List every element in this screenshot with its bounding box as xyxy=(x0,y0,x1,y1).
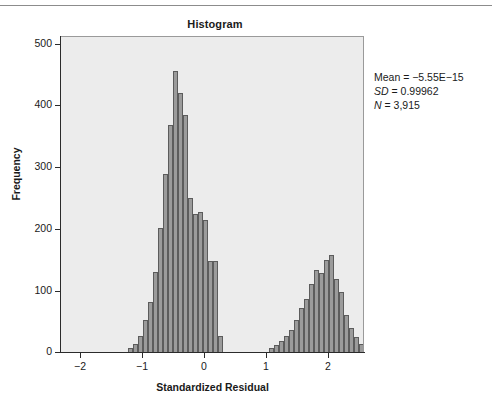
x-axis-title: Standardized Residual xyxy=(60,381,365,393)
histogram-page: Histogram 5004003002001000 −2−1012 Frequ… xyxy=(0,0,492,413)
stat-n-value: = 3,915 xyxy=(382,99,420,111)
histogram-bars xyxy=(61,37,363,352)
x-tick-label: 0 xyxy=(189,360,219,372)
stat-sd: SD = 0.99962 xyxy=(374,84,464,98)
chart-title: Histogram xyxy=(0,18,430,30)
stat-sd-symbol: SD xyxy=(374,85,389,97)
y-axis-title: Frequency xyxy=(10,114,22,234)
x-tick-label: 2 xyxy=(313,360,343,372)
stat-n: N = 3,915 xyxy=(374,98,464,112)
stat-mean: Mean = −5.55E−15 xyxy=(374,70,464,84)
x-tick-mark xyxy=(328,353,329,358)
x-tick-label: −2 xyxy=(65,360,95,372)
x-axis-line xyxy=(60,352,365,353)
x-tick-mark xyxy=(142,353,143,358)
stat-mean-text: Mean = −5.55E−15 xyxy=(374,71,464,83)
plot-area xyxy=(60,36,364,353)
x-tick-mark xyxy=(204,353,205,358)
y-tick-label: 0 xyxy=(20,345,52,357)
x-tick-label: −1 xyxy=(127,360,157,372)
y-tick-label: 200 xyxy=(20,222,52,234)
histogram-bar xyxy=(218,336,223,352)
stats-annotation: Mean = −5.55E−15 SD = 0.99962 N = 3,915 xyxy=(374,70,464,112)
stat-sd-value: = 0.99962 xyxy=(389,85,439,97)
y-tick-label: 500 xyxy=(20,37,52,49)
y-tick-label: 400 xyxy=(20,98,52,110)
histogram-bar xyxy=(359,344,364,352)
page-top-rule xyxy=(0,5,492,6)
y-axis-line xyxy=(60,36,61,353)
stat-n-symbol: N xyxy=(374,99,382,111)
y-tick-label: 100 xyxy=(20,284,52,296)
x-tick-mark xyxy=(266,353,267,358)
y-tick-label: 300 xyxy=(20,160,52,172)
x-tick-label: 1 xyxy=(251,360,281,372)
x-tick-mark xyxy=(80,353,81,358)
